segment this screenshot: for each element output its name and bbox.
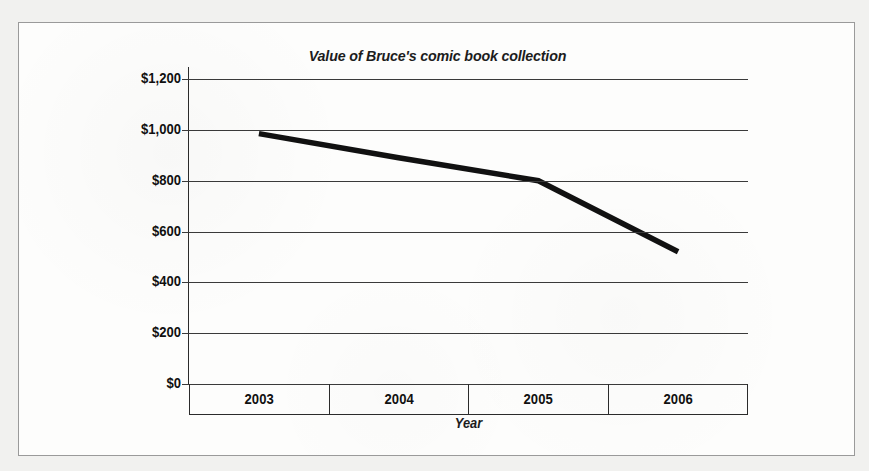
x-axis-label-text: 2003 [245,391,274,407]
gridline-600 [189,232,748,233]
x-axis-label-2003: 2003 [190,384,330,414]
x-axis-label-2005: 2005 [469,384,609,414]
chart-title: Value of Bruce's comic book collection [52,47,822,65]
x-axis-title: Year [211,415,725,431]
x-axis-label-2004: 2004 [330,384,470,414]
y-axis-label-800: $800 [100,172,181,188]
x-axis-label-text: 2005 [524,391,553,407]
figure-page: Value of Bruce's comic book collection $… [0,0,869,471]
chart-figure-frame: Value of Bruce's comic book collection $… [18,22,855,456]
y-tick-mark-0 [182,384,189,385]
y-tick-mark-600 [182,232,189,233]
y-axis-label-400: $400 [100,273,181,289]
x-axis-category-band: 2003200420052006 [189,384,748,415]
y-axis-label-200: $200 [100,324,181,340]
gridline-1200 [189,79,748,80]
y-tick-mark-1000 [182,130,189,131]
x-axis-label-2006: 2006 [609,384,748,414]
y-tick-mark-800 [182,181,189,182]
y-axis-label-600: $600 [100,223,181,239]
y-tick-mark-400 [182,282,189,283]
plot-area [189,79,748,384]
gridline-1000 [189,130,748,131]
y-tick-mark-1200 [182,79,189,80]
x-axis-label-text: 2004 [384,391,413,407]
gridline-400 [189,282,748,283]
y-axis-labels: $0$200$400$600$800$1,000$1,200 [77,79,181,384]
gridline-200 [189,333,748,334]
x-axis-label-text: 2006 [663,391,692,407]
y-axis-label-0: $0 [100,375,181,391]
y-axis-label-1200: $1,200 [100,70,181,86]
y-axis-label-1000: $1,000 [100,121,181,137]
y-tick-mark-200 [182,333,189,334]
gridline-800 [189,181,748,182]
